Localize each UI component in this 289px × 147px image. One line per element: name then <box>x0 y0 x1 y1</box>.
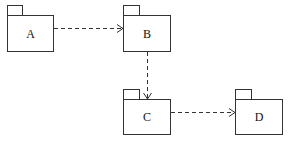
package-b[interactable]: B <box>124 6 171 52</box>
dependency-b-c <box>144 52 152 99</box>
package-diagram: A B C D <box>0 0 289 147</box>
package-tab <box>124 90 140 100</box>
package-label: B <box>143 27 151 41</box>
dependency-a-b <box>54 25 123 33</box>
package-tab <box>124 6 140 16</box>
package-a[interactable]: A <box>8 6 54 52</box>
package-tab <box>236 90 252 100</box>
dependency-c-d <box>171 109 235 117</box>
package-d[interactable]: D <box>236 90 283 135</box>
package-tab <box>8 6 23 16</box>
package-label: C <box>143 110 151 124</box>
package-label: D <box>255 110 264 124</box>
package-label: A <box>26 27 35 41</box>
